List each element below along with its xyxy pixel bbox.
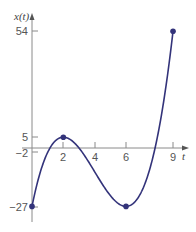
chart: 54 5 −2 −27 2 4 6 9 x(t) t bbox=[0, 0, 196, 232]
xtick-4: 4 bbox=[92, 151, 98, 163]
data-point bbox=[170, 28, 176, 34]
x-axis-label: t bbox=[182, 150, 186, 162]
ytick-5: 5 bbox=[22, 131, 28, 143]
axes bbox=[22, 13, 189, 222]
xtick-9: 9 bbox=[170, 151, 176, 163]
ytick-54: 54 bbox=[16, 25, 28, 37]
ytick-minus-2: −2 bbox=[15, 147, 28, 159]
ytick-minus-27: −27 bbox=[9, 201, 28, 213]
data-point bbox=[61, 134, 67, 140]
function-curve bbox=[32, 31, 173, 206]
y-axis-arrow-icon bbox=[30, 13, 35, 20]
xtick-2: 2 bbox=[60, 151, 66, 163]
data-point bbox=[123, 204, 129, 210]
y-ticks: 54 5 −2 −27 bbox=[9, 25, 38, 213]
y-axis-label: x(t) bbox=[13, 10, 30, 23]
marked-points bbox=[29, 28, 176, 209]
data-point bbox=[29, 204, 35, 210]
xtick-6: 6 bbox=[123, 151, 129, 163]
